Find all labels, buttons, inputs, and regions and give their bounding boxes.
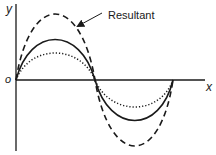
resultant-label: Resultant xyxy=(108,9,154,21)
annotation-arrow xyxy=(78,13,102,26)
y-axis-label: y xyxy=(5,2,13,16)
wave-diagram: y x o Resultant xyxy=(0,0,216,155)
origin-label: o xyxy=(5,73,11,85)
x-axis-label: x xyxy=(205,80,213,94)
